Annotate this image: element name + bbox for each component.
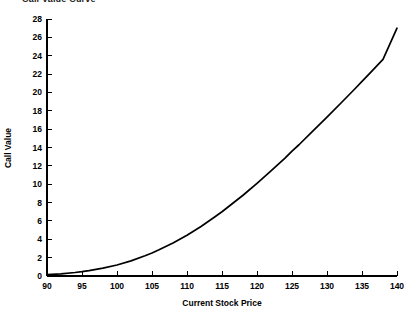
y-tick-label: 4 <box>37 234 42 244</box>
x-tick-label: 105 <box>145 281 159 291</box>
x-tick-label: 100 <box>110 281 124 291</box>
x-tick-label: 95 <box>77 281 87 291</box>
x-tick-label: 125 <box>285 281 299 291</box>
y-tick-label: 2 <box>37 253 42 263</box>
y-axis-tick-labels: 0246810121416182022242628 <box>33 14 43 281</box>
y-tick-label: 0 <box>37 271 42 281</box>
chart-figure: Call Value Curve 02468101214161820222426… <box>0 0 411 318</box>
x-axis: 9095100105110115120125130135140 Current … <box>42 271 404 308</box>
y-axis-title: Call Value <box>3 128 13 168</box>
x-tick-label: 130 <box>320 281 334 291</box>
y-tick-label: 26 <box>33 32 43 42</box>
y-axis: 0246810121416182022242628 Call Value <box>3 14 52 281</box>
x-tick-label: 135 <box>355 281 369 291</box>
y-tick-label: 16 <box>33 124 43 134</box>
y-tick-label: 18 <box>33 106 43 116</box>
y-tick-label: 14 <box>33 143 43 153</box>
x-tick-label: 120 <box>250 281 264 291</box>
chart-plot-area: 0246810121416182022242628 Call Value 909… <box>0 0 411 318</box>
y-tick-label: 20 <box>33 87 43 97</box>
x-tick-label: 110 <box>180 281 194 291</box>
y-tick-label: 8 <box>37 198 42 208</box>
y-tick-label: 28 <box>33 14 43 24</box>
y-tick-label: 6 <box>37 216 42 226</box>
y-tick-label: 24 <box>33 51 43 61</box>
y-axis-ticks <box>47 19 52 276</box>
y-tick-label: 10 <box>33 179 43 189</box>
y-tick-label: 12 <box>33 161 43 171</box>
x-axis-title: Current Stock Price <box>182 298 262 308</box>
x-axis-ticks <box>47 271 397 276</box>
x-tick-label: 90 <box>42 281 52 291</box>
y-tick-label: 22 <box>33 69 43 79</box>
call-value-curve <box>47 28 397 274</box>
x-tick-label: 115 <box>215 281 229 291</box>
x-axis-tick-labels: 9095100105110115120125130135140 <box>42 281 404 291</box>
x-tick-label: 140 <box>390 281 404 291</box>
